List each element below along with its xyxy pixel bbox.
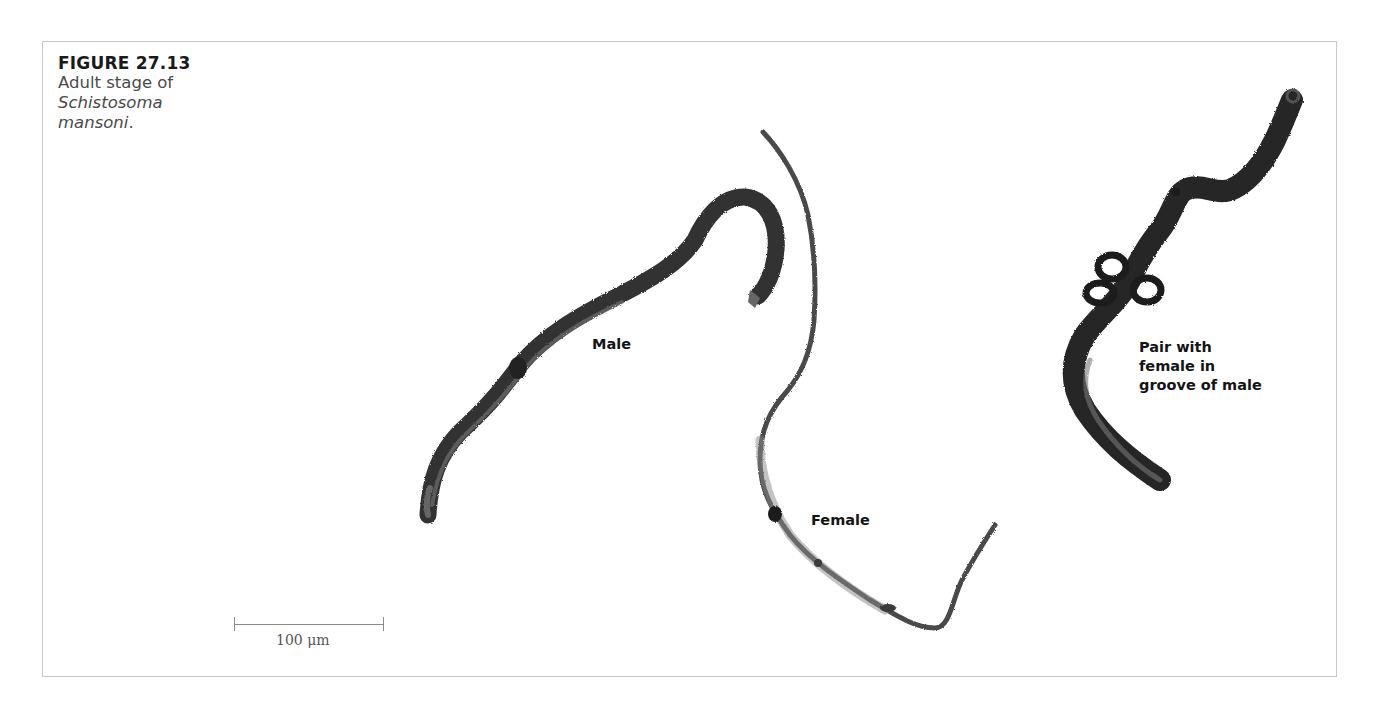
female-label: Female xyxy=(811,511,870,530)
pair-label: Pair with female in groove of male xyxy=(1139,338,1262,395)
pair-label-line-1: Pair with xyxy=(1139,338,1262,357)
scale-bar xyxy=(234,617,384,631)
female-worm-image xyxy=(760,132,995,628)
scale-bar-line xyxy=(234,624,384,625)
pair-label-line-2: female in xyxy=(1139,357,1262,376)
male-worm-image xyxy=(427,197,776,515)
paired-worms-image xyxy=(1074,90,1299,480)
male-label: Male xyxy=(592,335,631,354)
scale-bar-label: 100 μm xyxy=(276,632,330,648)
pair-label-line-3: groove of male xyxy=(1139,376,1262,395)
scale-bar-tick-left xyxy=(234,617,235,631)
scale-bar-tick-right xyxy=(383,617,384,631)
